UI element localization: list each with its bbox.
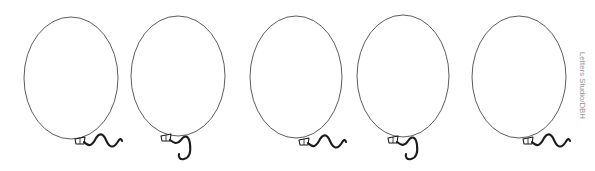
balloon-4-string [397, 138, 417, 160]
balloon-5 [472, 16, 570, 147]
balloon-2 [131, 16, 225, 159]
balloon-1-string [84, 134, 122, 146]
balloon-2-string [170, 137, 190, 160]
balloon-3 [250, 16, 346, 148]
balloon-5-body [472, 16, 566, 138]
balloon-1-body [24, 17, 118, 139]
balloon-5-string [532, 134, 570, 146]
balloon-3-body [250, 16, 342, 138]
balloon-3-string [308, 135, 346, 147]
balloon-4-body [357, 15, 449, 137]
balloon-2-body [131, 16, 225, 136]
page-canvas: Letters Studio/DBH [0, 0, 595, 171]
balloon-4 [357, 15, 449, 159]
balloon-illustration [0, 0, 595, 171]
balloon-1 [24, 17, 122, 147]
